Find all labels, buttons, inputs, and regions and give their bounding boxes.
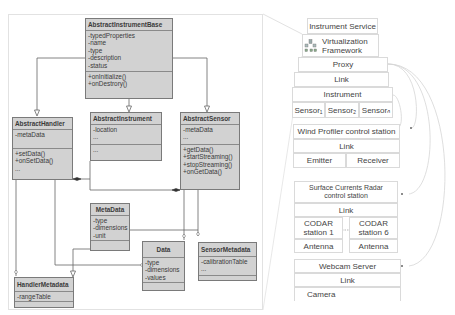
attribute: -type: [88, 47, 170, 55]
class-operations: ...: [91, 145, 161, 155]
link-layer: Link: [294, 72, 389, 87]
operation: +setData(): [15, 150, 70, 158]
class-name: Data: [143, 242, 184, 258]
station-title: control station: [324, 192, 368, 200]
class-operations: [15, 302, 73, 308]
station-label: station 1: [303, 228, 333, 237]
layer-label: Link: [334, 75, 349, 84]
emitter: Emitter: [293, 153, 346, 168]
class-metadata: MetaData -type -dimensions -unit: [90, 203, 130, 251]
codar-station-1: CODAR station 1: [294, 217, 343, 239]
sensor-label: Sensor₂: [328, 106, 356, 115]
class-operations: [143, 283, 184, 290]
instrument-service-layer: Instrument Service: [307, 18, 378, 34]
station-title: Wind Profiler control station: [298, 127, 396, 136]
attribute: -type: [93, 217, 127, 225]
network-icon: [304, 39, 318, 53]
component-label: Receiver: [357, 156, 389, 165]
operation: +onDestrory(): [88, 80, 170, 88]
receiver: Receiver: [346, 153, 400, 168]
class-attributes: -type -dimensions -values: [143, 258, 184, 284]
component-label: Antenna: [359, 242, 389, 251]
class-abstract-instrument: AbstractInstrument -location ... ...: [90, 112, 162, 161]
antenna-1: Antenna: [294, 239, 343, 253]
attribute: ...: [183, 133, 237, 141]
sensor-n: Sensorₙ: [359, 102, 393, 118]
attribute: -dimensions: [145, 266, 182, 274]
proxy-layer: Proxy: [298, 57, 388, 72]
station-label: CODAR: [359, 219, 388, 228]
operation: +onSetData(): [15, 157, 70, 165]
class-name: SensorMetadata: [199, 243, 256, 257]
station-title: Surface Currents Radar: [309, 184, 383, 192]
attribute: -type: [145, 259, 182, 267]
attribute: -metaData: [183, 126, 237, 134]
sensor-label: Sensorₙ: [362, 106, 390, 115]
operation: +onInitialize(): [88, 73, 170, 81]
class-operations: +setData() +onSetData() ...: [13, 149, 72, 174]
sensor-2: Sensor₂: [325, 102, 359, 118]
attribute: -values: [145, 274, 182, 282]
attribute: -location: [93, 126, 159, 134]
operation: +onGetData(): [183, 168, 237, 176]
operation: +startStreaming(): [183, 153, 237, 161]
attribute: -typedProperties: [88, 32, 170, 40]
component-label: Camera: [307, 290, 335, 299]
class-operations: [91, 241, 129, 248]
class-name: AbstractSensor: [181, 113, 239, 125]
class-abstract-sensor: AbstractSensor -metaData ... +getData() …: [180, 112, 240, 190]
surface-radar-station: Surface Currents Radar control station: [294, 181, 398, 203]
instrument-layer: Instrument: [292, 87, 393, 102]
station-label: station 6: [358, 228, 388, 237]
class-name: MetaData: [91, 204, 129, 216]
webcam-server: Webcam Server: [294, 259, 401, 273]
operation: ...: [93, 146, 159, 154]
attribute: -calibrationTable: [201, 258, 254, 266]
wind-profiler-station: Wind Profiler control station: [293, 124, 400, 139]
layer-label: Instrument: [324, 90, 362, 99]
layer-label: Virtualization Framework: [322, 37, 377, 55]
attribute: -description: [88, 54, 170, 62]
station-label: CODAR: [304, 219, 333, 228]
operation: ...: [15, 165, 70, 173]
class-name: AbstractInstrumentBase: [86, 19, 172, 31]
antenna-6: Antenna: [349, 239, 398, 253]
sensor-1: Sensor₁: [292, 102, 325, 118]
class-attributes: -rangeTable: [15, 292, 73, 303]
station-title: Webcam Server: [319, 262, 376, 271]
class-attributes: -calibrationTable ...: [199, 257, 256, 276]
component-label: Emitter: [307, 156, 332, 165]
virtualization-framework-layer: Virtualization Framework: [302, 34, 379, 57]
component-label: Antenna: [304, 242, 334, 251]
class-operations: +onInitialize() +onDestrory(): [86, 72, 172, 89]
class-abstract-instrument-base: AbstractInstrumentBase -typedProperties …: [85, 18, 173, 99]
class-name: HandlerMetadata: [15, 278, 73, 292]
class-attributes: -type -dimensions -unit: [91, 216, 129, 242]
class-operations: [199, 276, 256, 282]
class-attributes: -typedProperties -name -type -descriptio…: [86, 31, 172, 72]
attribute: ...: [93, 133, 159, 141]
class-attributes: -metaData: [13, 130, 72, 149]
class-data: Data -type -dimensions -values: [142, 241, 185, 291]
layer-label: Link: [339, 142, 354, 151]
layer-label: Proxy: [333, 60, 353, 69]
surface-radar-link: Link: [294, 203, 398, 217]
layer-label: Instrument Service: [309, 22, 376, 31]
attribute: -metaData: [15, 131, 70, 139]
codar-station-6: CODAR station 6: [349, 217, 398, 239]
attribute: -name: [88, 39, 170, 47]
class-name: AbstractInstrument: [91, 113, 161, 125]
layer-label: Link: [339, 206, 354, 215]
camera: Camera: [294, 287, 401, 301]
operation: +stopStreaming(): [183, 161, 237, 169]
webcam-link: Link: [294, 273, 401, 287]
class-attributes: -metaData ...: [181, 125, 239, 145]
attribute: ...: [201, 265, 254, 273]
attribute: -status: [88, 62, 170, 70]
wind-profiler-link: Link: [293, 139, 400, 153]
class-name: AbstractHandler: [13, 118, 72, 130]
class-handler-metadata: HandlerMetadata -rangeTable: [14, 277, 74, 308]
attribute: -rangeTable: [17, 293, 71, 301]
operation: +getData(): [183, 146, 237, 154]
layer-label: Link: [340, 276, 355, 285]
